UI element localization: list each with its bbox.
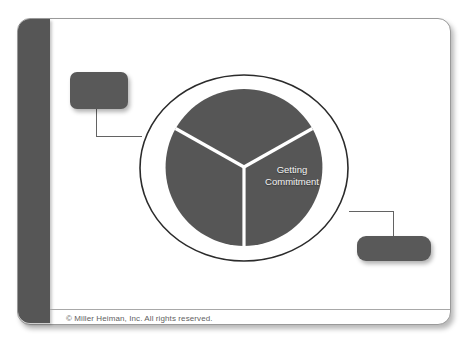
slide-left-spine	[18, 19, 50, 323]
slide-canvas: Getting Commitment © Miller Heiman, Inc.…	[0, 0, 476, 347]
leader-line-bottom-right-horizontal	[349, 211, 394, 212]
three-sector-circle-diagram	[138, 72, 354, 268]
callout-top-left[interactable]	[70, 72, 128, 109]
leader-line-bottom-right-vertical	[393, 211, 394, 237]
callout-bottom-right[interactable]	[357, 236, 431, 261]
footer-divider	[50, 309, 450, 310]
footer-copyright: © Miller Heiman, Inc. All rights reserve…	[66, 313, 396, 324]
leader-line-top-left-horizontal	[96, 136, 142, 137]
leader-line-top-left-vertical	[96, 109, 97, 137]
